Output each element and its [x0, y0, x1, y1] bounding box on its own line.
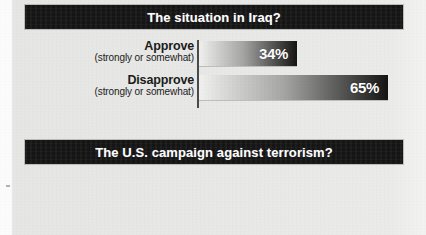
poll-graphic: The situation in Iraq? Approve (strongly…: [0, 0, 426, 235]
panel-title-banner-campaign: The U.S. campaign against terrorism?: [25, 140, 403, 164]
bar-category-label-main: Disapprove: [95, 74, 195, 87]
bar-category-label: Disapprove (strongly or somewhat): [95, 74, 195, 97]
bar-category-label-sub: (strongly or somewhat): [95, 87, 195, 97]
chart-row: Disapprove (strongly or somewhat) 65%: [0, 74, 426, 100]
bar-iraq-approve: 34%: [199, 41, 297, 66]
bar-category-label-sub: (strongly or somewhat): [95, 53, 195, 63]
bar-category-label-main: Approve: [95, 40, 195, 53]
bar-iraq-disapprove: 65%: [199, 75, 388, 100]
panel-title-text-campaign: The U.S. campaign against terrorism?: [95, 145, 333, 160]
panel-title-banner-iraq: The situation in Iraq?: [25, 5, 403, 29]
bar-category-label: Approve (strongly or somewhat): [95, 40, 195, 63]
scan-artifact-speck: [6, 185, 10, 187]
paper-grain-overlay: [0, 0, 426, 235]
bar-value-label: 34%: [259, 45, 297, 62]
panel-title-text-iraq: The situation in Iraq?: [147, 10, 281, 25]
chart-row: Approve (strongly or somewhat) 34%: [0, 40, 426, 66]
bar-value-label: 65%: [350, 79, 388, 96]
